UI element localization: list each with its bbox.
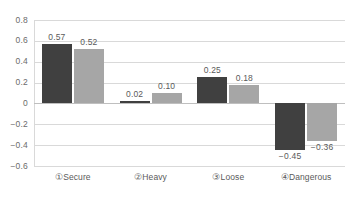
y-tick-label: −0.6 bbox=[0, 161, 28, 171]
y-tick-label: 0.2 bbox=[0, 77, 28, 87]
y-tick-label: 0 bbox=[0, 98, 28, 108]
bar-chart: 0.80.60.40.20−0.2−0.4−0.6 0.570.520.020.… bbox=[0, 0, 351, 197]
bar-value-label: −0.36 bbox=[302, 142, 342, 152]
bar bbox=[275, 103, 305, 150]
bar bbox=[152, 93, 182, 103]
bar bbox=[74, 49, 104, 103]
bar bbox=[229, 85, 259, 104]
bar bbox=[42, 44, 72, 103]
bar-value-label: −0.45 bbox=[270, 151, 310, 161]
bar-value-label: 0.10 bbox=[147, 81, 187, 91]
bar bbox=[120, 101, 150, 103]
y-tick-label: −0.2 bbox=[0, 119, 28, 129]
x-tick-label: ②Heavy bbox=[112, 172, 190, 182]
bar-value-label: 0.52 bbox=[69, 37, 109, 47]
x-tick-label: ①Secure bbox=[34, 172, 112, 182]
y-tick-label: 0.6 bbox=[0, 35, 28, 45]
y-tick-label: 0.4 bbox=[0, 56, 28, 66]
bar-value-label: 0.18 bbox=[224, 73, 264, 83]
y-tick-label: 0.8 bbox=[0, 15, 28, 25]
gridline bbox=[34, 166, 345, 167]
gridline bbox=[34, 20, 345, 21]
x-tick-label: ④Dangerous bbox=[267, 172, 345, 182]
x-tick-label: ③Loose bbox=[190, 172, 268, 182]
bar bbox=[307, 103, 337, 141]
bar bbox=[197, 77, 227, 103]
y-axis-labels: 0.80.60.40.20−0.2−0.4−0.6 bbox=[0, 0, 30, 197]
y-tick-label: −0.4 bbox=[0, 140, 28, 150]
plot-area: 0.570.520.020.100.250.18−0.45−0.36 bbox=[34, 20, 345, 166]
